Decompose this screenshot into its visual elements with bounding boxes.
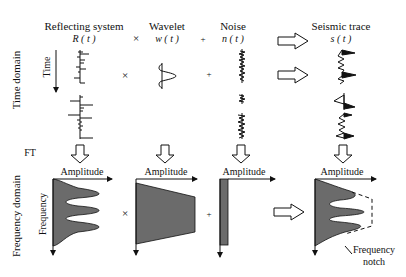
hollow-arrow-down-icon bbox=[71, 145, 89, 163]
operator-add-freq: + bbox=[206, 209, 211, 219]
operator-convolve-header: × bbox=[133, 32, 139, 44]
axis-label-time: Time bbox=[41, 56, 52, 77]
operator-add-header: + bbox=[200, 34, 205, 44]
wavelet-curve bbox=[159, 63, 176, 89]
hollow-arrow-right-icon bbox=[278, 67, 308, 83]
row-label-time-domain: Time domain bbox=[10, 50, 22, 109]
seismic-trace bbox=[334, 50, 356, 139]
column-title-reflecting-system: Reflecting system bbox=[44, 20, 124, 32]
column-title-wavelet: Wavelet bbox=[149, 20, 185, 32]
symbol-n-t: n ( t ) bbox=[222, 33, 245, 45]
axis-label-amplitude: Amplitude bbox=[321, 166, 364, 177]
annotation-frequency-notch-line1: Frequency bbox=[353, 244, 395, 255]
axis-label-frequency: Frequency bbox=[37, 193, 48, 235]
operator-convolve-time: × bbox=[122, 69, 128, 81]
wavelet-spectrum bbox=[136, 179, 197, 255]
axis-label-amplitude: Amplitude bbox=[61, 166, 104, 177]
row-label-frequency-domain: Frequency domain bbox=[10, 174, 22, 257]
reflectivity-spectrum bbox=[53, 179, 112, 255]
convolution-diagram: Reflecting system R ( t ) × Wavelet w ( … bbox=[0, 0, 406, 277]
hollow-arrow-down-icon bbox=[156, 145, 174, 163]
annotation-frequency-notch-line2: notch bbox=[363, 256, 385, 267]
operator-multiply-freq: × bbox=[122, 207, 128, 219]
symbol-s-t: s ( t ) bbox=[331, 33, 353, 45]
reflectivity-series bbox=[68, 50, 93, 139]
column-title-noise: Noise bbox=[220, 20, 246, 32]
axis-label-amplitude: Amplitude bbox=[223, 166, 266, 177]
symbol-w-t: w ( t ) bbox=[155, 33, 179, 45]
hollow-arrow-down-icon bbox=[232, 145, 250, 163]
symbol-r-t: R ( t ) bbox=[71, 33, 96, 45]
axis-label-amplitude: Amplitude bbox=[145, 166, 188, 177]
row-label-ft: FT bbox=[24, 147, 36, 158]
hollow-arrow-down-icon bbox=[334, 145, 352, 163]
hollow-arrow-right-icon bbox=[274, 204, 304, 220]
noise-series bbox=[238, 49, 245, 139]
noise-spectrum bbox=[220, 179, 275, 257]
column-title-seismic-trace: Seismic trace bbox=[312, 20, 371, 32]
operator-add-time: + bbox=[206, 69, 211, 79]
hollow-arrow-right-icon bbox=[278, 33, 308, 49]
notch-pointer bbox=[345, 246, 352, 254]
